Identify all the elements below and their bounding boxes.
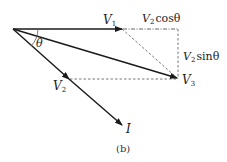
current-vector — [69, 79, 122, 125]
figure-caption: (b) — [116, 143, 130, 154]
phasor-diagram: θ V1 V2cosθ V2sinθ V3 V2 I (b) — [0, 0, 227, 162]
sin-component-label: V2sinθ — [183, 50, 220, 64]
current-label: I — [125, 122, 131, 136]
theta-label: θ — [36, 37, 43, 50]
v1-label: V1 — [103, 13, 116, 28]
v3-label: V3 — [182, 73, 195, 88]
cos-component-label: V2cosθ — [142, 12, 181, 26]
v2-label: V2 — [53, 79, 66, 94]
